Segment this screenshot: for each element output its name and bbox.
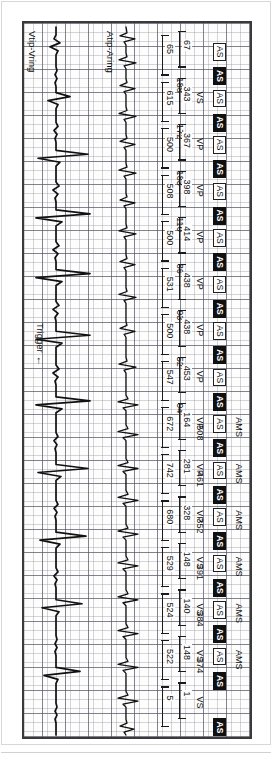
ams-cycle-value: 391: [194, 565, 205, 580]
av-interval-value: 438: [182, 318, 192, 335]
vent-paced-marker: VP: [194, 371, 205, 383]
vv-interval-value: 500: [165, 229, 175, 246]
vv-interval-value: 500: [165, 136, 175, 153]
atrial-egm-channel: Atip-Aring: [98, 23, 154, 737]
atrial-sensed-marker: AS: [213, 648, 226, 666]
trigger-arrow-icon: ←: [36, 356, 45, 366]
atrial-sensed-marker: AS: [213, 229, 226, 247]
vv-interval-value: 531: [165, 276, 175, 293]
atrial-sensed-marker: AS: [213, 601, 226, 619]
atrial-refractory-marker: AS: [213, 67, 226, 85]
atrial-refractory-marker: AS: [213, 346, 226, 364]
av-interval-value: 1: [182, 690, 192, 697]
atrial-sensed-marker: AS: [213, 555, 226, 573]
ventricular-egm-channel: Vtip-Vring: [22, 23, 100, 737]
vv-interval-value: 65: [165, 43, 175, 55]
ams-cycle-value: 461: [194, 472, 205, 487]
atrial-trace-svg: [98, 23, 154, 737]
atrial-sensed-marker: AS: [213, 136, 226, 154]
bottom-rule: [1, 752, 271, 753]
atrial-refractory-marker: AS: [213, 486, 226, 504]
av-interval-value: 328: [182, 504, 192, 521]
atrial-refractory-marker: AS: [213, 718, 226, 736]
atrial-refractory-marker: AS: [213, 672, 226, 690]
ams-cycle-value: 508: [194, 425, 205, 440]
av-interval-value: 367: [182, 132, 192, 149]
vv-interval-value: 680: [165, 508, 175, 525]
av-interval-value: 140: [182, 597, 192, 614]
atrial-refractory-marker: AS: [213, 114, 226, 132]
av-interval-value: 164: [182, 411, 192, 428]
av-interval-value: 343: [182, 86, 192, 103]
atrial-sensed-marker: AS: [213, 508, 226, 526]
vv-interval-lane: 6561550050850053150054767274268052952452…: [154, 23, 171, 737]
atrial-sensed-marker: AS: [213, 183, 226, 201]
rotated-strip-container: AMSAMSAMSAMSAMSAMS ASASASASASASASASASASA…: [22, 21, 252, 739]
av-interval-value: 414: [182, 225, 192, 242]
ams-marker-lane: AMSAMSAMSAMSAMSAMS: [229, 23, 248, 737]
screenshot-page: AMSAMSAMSAMSAMSAMS ASASASASASASASASASASA…: [0, 0, 274, 760]
ams-marker: AMS: [233, 603, 244, 623]
vent-paced-marker: VP: [194, 278, 205, 290]
av-interval-value: 453: [182, 365, 192, 382]
atrial-sensed-marker: AS: [213, 43, 226, 61]
vv-interval-value: 529: [165, 555, 175, 572]
av-interval-value: 148: [182, 551, 192, 568]
atrial-refractory-marker: AS: [213, 532, 226, 550]
atrial-sensed-marker: AS: [213, 276, 226, 294]
ams-marker: AMS: [233, 464, 244, 484]
ventricular-channel-label: Vtip-Vring: [27, 31, 38, 72]
atrial-refractory-marker: AS: [213, 300, 226, 318]
vv-interval-value: 742: [165, 462, 175, 479]
vv-interval-value: 522: [165, 648, 175, 665]
vv-interval-value: 672: [165, 415, 175, 432]
ams-marker: AMS: [233, 557, 244, 577]
atrial-refractory-marker: AS: [213, 393, 226, 411]
atrial-refractory-marker: AS: [213, 579, 226, 597]
vv-interval-value: 524: [165, 601, 175, 618]
ams-marker: AMS: [233, 650, 244, 670]
av-interval-value: 398: [182, 179, 192, 196]
atrial-sensed-marker: AS: [213, 322, 226, 340]
atrial-sensed-marker: AS: [213, 462, 226, 480]
atrial-refractory-marker: AS: [213, 207, 226, 225]
vv-interval-value: 508: [165, 183, 175, 200]
atrial-channel-label: Atip-Aring: [105, 31, 116, 73]
ams-cycle-value: 374: [194, 658, 205, 673]
vv-interval-value: 5: [165, 694, 175, 701]
atrial-refractory-marker: AS: [213, 625, 226, 643]
av-interval-value: 67: [182, 39, 192, 51]
ventricular-trace-svg: [22, 23, 100, 737]
ams-marker: AMS: [233, 510, 244, 530]
atrial-refractory-marker: AS: [213, 160, 226, 178]
trigger-label: Trigger: [35, 323, 46, 353]
vent-paced-marker: VP: [194, 324, 205, 336]
vv-interval-value: 547: [165, 369, 175, 386]
vent-paced-marker: VP: [194, 231, 205, 243]
atrial-trace: [118, 27, 138, 735]
ecg-strip: AMSAMSAMSAMSAMSAMS ASASASASASASASASASASA…: [22, 21, 252, 739]
vv-interval-value: 500: [165, 322, 175, 339]
av-interval-value: 438: [182, 272, 192, 289]
ams-marker: AMS: [233, 417, 244, 437]
av-interval-value: 281: [182, 458, 192, 475]
ams-cycle-value: 384: [194, 611, 205, 626]
atrial-refractory-marker: AS: [213, 439, 226, 457]
vent-sensed-marker: VS: [194, 92, 205, 104]
atrial-sensed-marker: AS: [213, 415, 226, 433]
ventricular-trace: [36, 27, 90, 735]
ams-cycle-value: 352: [194, 518, 205, 533]
vent-paced-marker: VP: [194, 138, 205, 150]
vent-paced-marker: VP: [194, 185, 205, 197]
av-interval-value: 148: [182, 644, 192, 661]
atrial-refractory-marker: AS: [213, 253, 226, 271]
atrial-marker-lane: ASASASASASASASASASASASASASASASASASASASAS…: [210, 23, 229, 737]
atrial-sensed-marker: AS: [213, 90, 226, 108]
trigger-annotation: Trigger ←: [35, 323, 46, 366]
vent-sensed-marker: VS: [194, 696, 205, 708]
atrial-sensed-marker: AS: [213, 369, 226, 387]
vv-interval-value: 615: [165, 90, 175, 107]
